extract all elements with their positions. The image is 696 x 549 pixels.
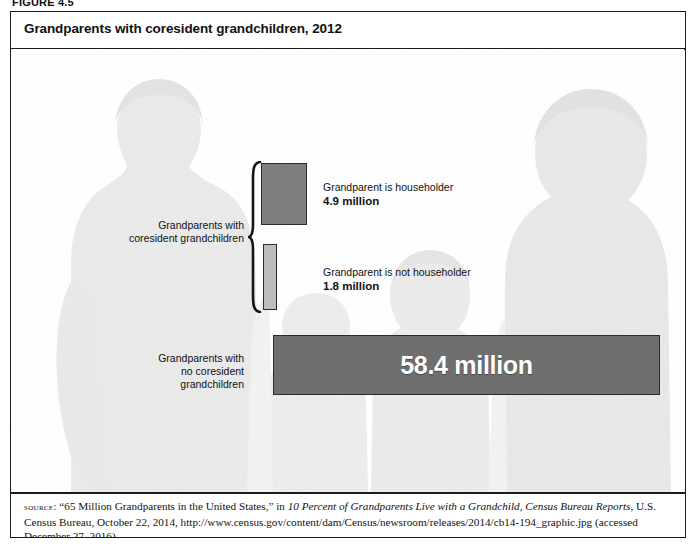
callout-householder: Grandparent is householder 4.9 million [323,180,453,208]
group-label-no-coresident-line3: grandchildren [139,378,244,391]
source-text-part1: “65 Million Grandparents in the United S… [57,500,288,512]
group-brace-icon [248,161,262,313]
source-note: source: “65 Million Grandparents in the … [24,499,674,538]
bar-grandparent-is-not-householder[interactable] [263,244,277,310]
callout-householder-value: 4.9 million [323,194,453,208]
bar-value-label-no-coresident: 58.4 million [400,351,533,380]
figure-frame: Grandparents with coresident grandchildr… [10,11,686,538]
source-word: source: [24,501,57,512]
group-label-coresident: Grandparents with coresident grandchildr… [129,219,244,245]
source-divider [11,492,685,494]
callout-householder-label: Grandparent is householder [323,180,453,194]
chart-plot-area: 58.4 million Grandparent is householder … [11,49,684,492]
page-title: Grandparents with coresident grandchildr… [24,21,342,36]
group-label-coresident-line2: coresident grandchildren [129,232,244,245]
callout-not-householder: Grandparent is not householder 1.8 milli… [323,265,471,293]
bar-no-coresident-grandchildren[interactable]: 58.4 million [273,335,660,395]
group-label-no-coresident: Grandparents with no coresident grandchi… [139,352,244,391]
callout-not-householder-label: Grandparent is not householder [323,265,471,279]
source-text-italic: 10 Percent of Grandparents Live with a G… [288,500,631,512]
group-label-no-coresident-line1: Grandparents with [139,352,244,365]
figure-number-label: FIGURE 4.5 [12,0,74,8]
callout-not-householder-value: 1.8 million [323,279,471,293]
group-label-no-coresident-line2: no coresident [139,365,244,378]
bar-grandparent-is-householder[interactable] [261,163,307,225]
group-label-coresident-line1: Grandparents with [129,219,244,232]
